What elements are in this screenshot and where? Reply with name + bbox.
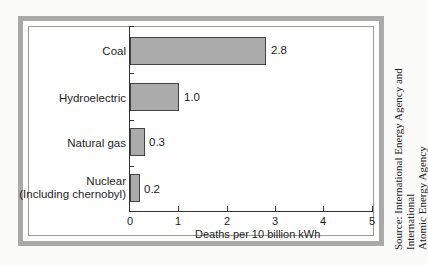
category-label-nuclear-line2: (Including chernobyl) bbox=[19, 188, 126, 201]
source-note-line1: Source: International Energy Agency and … bbox=[392, 20, 416, 250]
x-tick bbox=[323, 206, 324, 211]
category-label-nuclear: Nuclear (Including chernobyl) bbox=[19, 175, 126, 201]
x-tick-label: 1 bbox=[168, 215, 188, 227]
x-tick bbox=[178, 206, 179, 211]
value-label-nuclear: 0.2 bbox=[144, 183, 160, 195]
x-axis-title: Deaths per 10 billion kWh bbox=[195, 228, 320, 240]
source-note: Source: International Energy Agency and … bbox=[392, 20, 428, 250]
y-tick bbox=[129, 120, 134, 121]
x-tick-label: 0 bbox=[120, 215, 140, 227]
bar-coal bbox=[130, 37, 266, 65]
x-axis bbox=[129, 211, 373, 212]
bar-hydroelectric bbox=[130, 83, 179, 111]
bar-natural-gas bbox=[130, 128, 145, 156]
y-tick bbox=[129, 73, 134, 74]
category-label-coal: Coal bbox=[102, 45, 126, 58]
value-label-hydroelectric: 1.0 bbox=[184, 91, 200, 103]
category-label-natural-gas: Natural gas bbox=[67, 137, 126, 150]
source-note-line2: Atomic Energy Agency bbox=[416, 20, 428, 250]
y-tick bbox=[129, 26, 134, 27]
category-label-nuclear-line1: Nuclear bbox=[19, 175, 126, 188]
x-tick-label: 3 bbox=[265, 215, 285, 227]
value-label-coal: 2.8 bbox=[271, 44, 287, 56]
y-tick bbox=[129, 166, 134, 167]
category-label-hydroelectric: Hydroelectric bbox=[59, 92, 126, 105]
x-tick-label: 2 bbox=[217, 215, 237, 227]
x-tick bbox=[227, 206, 228, 211]
x-tick bbox=[275, 206, 276, 211]
x-tick bbox=[372, 206, 373, 211]
value-label-natural-gas: 0.3 bbox=[149, 136, 165, 148]
x-tick-label: 4 bbox=[313, 215, 333, 227]
bar-nuclear bbox=[130, 174, 140, 202]
x-tick-label: 5 bbox=[362, 215, 382, 227]
